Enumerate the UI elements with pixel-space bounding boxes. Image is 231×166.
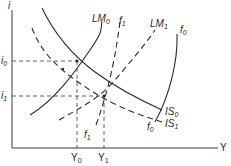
f1-curve [96,22,120,125]
f0-top-label: f0 [180,24,187,36]
y0-tick-label: Y0 [71,152,82,164]
intersection-lm0-is1 [62,68,64,70]
is0-label: IS0 [165,106,178,118]
f1-bottom-label: f1 [84,129,91,141]
is-lm-diagram: i Y LM0 f1 LM1 f0 IS0 IS1 f0 f1 i0 i1 Y0… [0,0,231,166]
lm1-curve [59,30,155,120]
i1-tick-label: i1 [1,90,7,102]
y-axis-label: i [8,0,11,11]
is1-label: IS1 [165,118,178,130]
lm1-label: LM1 [150,18,168,30]
y1-tick-label: Y1 [98,152,109,164]
lm0-label: LM0 [92,13,110,25]
i0-tick-label: i0 [1,55,7,67]
f0-bottom-label: f0 [147,121,154,133]
x-axis-label: Y [220,142,227,153]
f1-top-label: f1 [119,15,126,27]
is1-curve [32,28,162,122]
equilibrium-point-new [102,94,105,97]
equilibrium-point-initial [75,59,78,62]
